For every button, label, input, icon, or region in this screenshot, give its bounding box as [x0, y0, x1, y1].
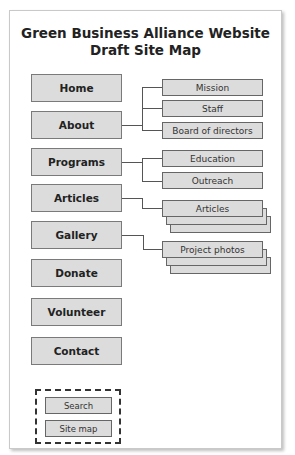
page-search: Search — [45, 397, 112, 414]
connector-outreach — [142, 181, 162, 182]
connector-staff — [142, 108, 162, 109]
connector-programs — [122, 162, 142, 163]
page-outreach: Outreach — [162, 172, 263, 189]
page-mission: Mission — [162, 79, 263, 96]
connector-project-photos — [143, 249, 162, 250]
page-about: About — [31, 111, 122, 139]
page-board-of-directors: Board of directors — [162, 122, 263, 139]
diagram-title: Green Business Alliance Website Draft Si… — [10, 25, 281, 59]
connector-articles — [122, 198, 142, 199]
utility-pages-group: Search Site map — [35, 389, 121, 444]
page-home: Home — [31, 74, 122, 102]
page-site-map: Site map — [45, 420, 112, 437]
title-line-1: Green Business Alliance Website — [10, 25, 281, 42]
page-volunteer: Volunteer — [31, 298, 122, 326]
page-programs: Programs — [31, 148, 122, 176]
page-gallery: Gallery — [31, 221, 122, 249]
connector-about — [122, 125, 142, 126]
connector-gallery — [122, 235, 143, 236]
page-donate: Donate — [31, 259, 122, 287]
connector-programs-vertical — [142, 158, 143, 181]
connector-mission — [142, 87, 162, 88]
page-staff: Staff — [162, 100, 263, 117]
page-articles: Articles — [31, 184, 122, 212]
page-contact: Contact — [31, 337, 122, 365]
connector-education — [142, 158, 162, 159]
connector-board — [142, 130, 162, 131]
page-education: Education — [162, 150, 263, 167]
page-project-photos: Project photos — [162, 241, 263, 258]
connector-gallery-vertical — [143, 235, 144, 249]
page-articles-list: Articles — [162, 200, 263, 217]
connector-articles-child — [142, 208, 162, 209]
title-line-2: Draft Site Map — [10, 42, 281, 59]
site-map-page: Green Business Alliance Website Draft Si… — [9, 10, 282, 449]
